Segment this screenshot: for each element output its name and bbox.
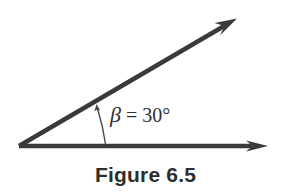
angle-arc-arrowhead xyxy=(94,104,100,112)
figure-caption: Figure 6.5 xyxy=(0,163,291,187)
angle-value: 30° xyxy=(142,104,170,126)
inclined-ray-shaft xyxy=(19,26,225,147)
angle-equals-sign: = xyxy=(126,104,137,126)
angle-label: β=30° xyxy=(109,102,170,127)
angle-arc xyxy=(98,109,106,145)
inclined-ray-arrowhead xyxy=(215,19,238,36)
figure-container: β=30° Figure 6.5 xyxy=(0,0,291,194)
beta-symbol: β xyxy=(109,102,121,127)
